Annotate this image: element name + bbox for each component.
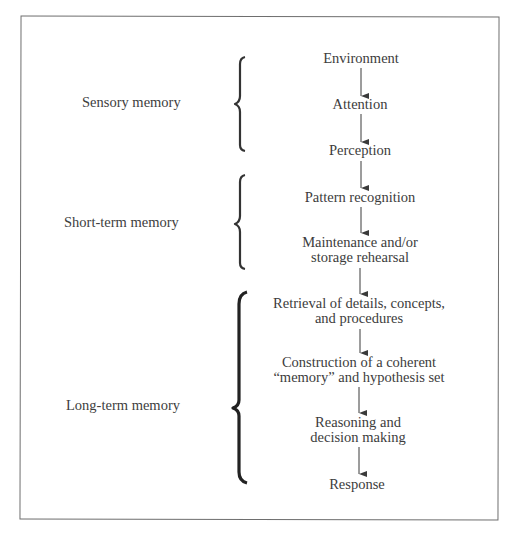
brace-long-term-memory (233, 292, 247, 483)
brace-sensory-memory (235, 57, 245, 151)
connectors-layer (0, 0, 514, 534)
brace-short-term-memory (235, 175, 245, 269)
